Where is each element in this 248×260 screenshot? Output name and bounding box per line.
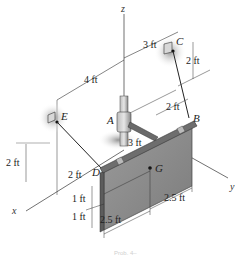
- dim-c-ext: [178, 70, 210, 86]
- point-d-label: D: [91, 166, 100, 178]
- dim-e-2ft: 2 ft: [6, 157, 20, 168]
- support-c-bracket: [164, 42, 172, 54]
- dim-plate-1ft-b: 1 ft: [72, 211, 86, 222]
- point-a-label: A: [106, 114, 114, 126]
- cable-de: [57, 122, 103, 170]
- point-g-label: G: [155, 162, 163, 174]
- statics-diagram: z x y 3 ft 4 ft C 2 ft 2 ft B E 2 ft 2 f…: [0, 0, 248, 260]
- dim-right-2-5ft: 2.5 ft: [164, 192, 185, 203]
- x-axis-label: x: [11, 205, 17, 216]
- diagram-canvas: z x y 3 ft 4 ft C 2 ft 2 ft B E 2 ft 2 f…: [0, 0, 248, 260]
- z-axis-label: z: [120, 3, 125, 14]
- figure-caption: Prob. 4–: [114, 250, 137, 256]
- point-c-label: C: [176, 35, 184, 47]
- dim-b-2ft: 2 ft: [166, 101, 180, 112]
- dim-bottom-2-5ft: 2.5 ft: [100, 214, 121, 225]
- y-axis-label: y: [229, 181, 235, 192]
- dim-rod-3ft: 3 ft: [128, 137, 142, 148]
- dim-left-4ft: 4 ft: [84, 74, 98, 85]
- dim-d-2ft: 2 ft: [68, 169, 82, 180]
- collar-a: [117, 112, 131, 132]
- point-e-label: E: [60, 110, 68, 122]
- dim-plate-1ft-a: 1 ft: [72, 193, 86, 204]
- dim-c-2ft: 2 ft: [186, 55, 200, 66]
